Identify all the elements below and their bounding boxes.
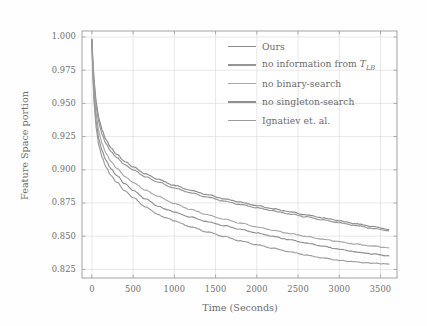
legend-line-swatch xyxy=(228,97,256,106)
x-tick-label: 3500 xyxy=(359,284,403,294)
legend-item-label: no singleton-search xyxy=(262,96,354,107)
legend-item[interactable]: Ignatiev et. al. xyxy=(228,111,400,130)
y-tick-label: 0.950 xyxy=(40,98,76,108)
legend-item[interactable]: no singleton-search xyxy=(228,93,400,112)
x-axis-title: Time (Seconds) xyxy=(82,302,398,313)
chart-figure: 0.8250.8500.8750.9000.9250.9500.9751.000… xyxy=(0,0,427,326)
x-tick-label: 1500 xyxy=(194,284,238,294)
legend-item[interactable]: Ours xyxy=(228,37,400,56)
legend-item-label: no information from TLB xyxy=(262,58,375,72)
x-tick-label: 2500 xyxy=(276,284,320,294)
y-tick-label: 0.850 xyxy=(40,231,76,241)
x-tick-label: 500 xyxy=(111,284,155,294)
y-tick-label: 0.875 xyxy=(40,197,76,207)
x-tick-label: 2000 xyxy=(235,284,279,294)
legend-line-swatch xyxy=(228,116,256,125)
legend-item[interactable]: no information from TLB xyxy=(228,56,400,75)
legend-item-label: Ours xyxy=(262,41,285,52)
y-tick-label: 0.925 xyxy=(40,131,76,141)
y-axis-title: Feature Space portion xyxy=(19,61,30,231)
legend-line-swatch xyxy=(228,42,256,51)
legend-line-swatch xyxy=(228,79,256,88)
legend-item-label: Ignatiev et. al. xyxy=(262,115,330,126)
y-tick-label: 1.000 xyxy=(40,31,76,41)
x-tick-label: 3000 xyxy=(317,284,361,294)
y-tick-label: 0.900 xyxy=(40,164,76,174)
legend-line-swatch xyxy=(228,60,256,69)
y-tick-label: 0.825 xyxy=(40,264,76,274)
legend-item[interactable]: no binary-search xyxy=(228,74,400,93)
chart-legend: Oursno information from TLBno binary-sea… xyxy=(228,37,400,130)
x-tick-label: 0 xyxy=(70,284,114,294)
x-tick-label: 1000 xyxy=(152,284,196,294)
legend-item-label: no binary-search xyxy=(262,78,341,89)
y-tick-label: 0.975 xyxy=(40,65,76,75)
